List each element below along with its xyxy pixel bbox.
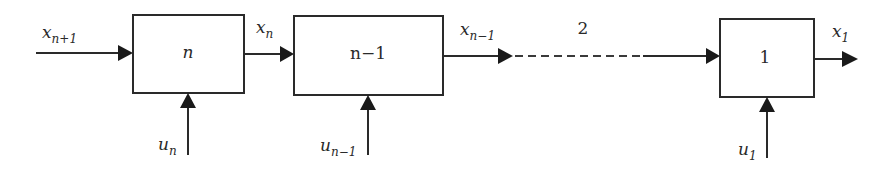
label-u-1: u1 <box>738 139 757 163</box>
label-u-n: un <box>158 134 177 158</box>
arrowhead <box>759 97 775 112</box>
stage-label-n-minus-1: n−1 <box>350 43 386 63</box>
arrowhead <box>280 46 294 62</box>
label-x-n: xn <box>256 17 273 41</box>
label-u-n-minus-1: un−1 <box>320 135 356 159</box>
arrowhead <box>706 48 720 64</box>
arrowhead <box>842 51 858 67</box>
arrowhead <box>498 48 513 64</box>
stage-label-1: 1 <box>760 47 771 67</box>
arrowhead <box>360 95 376 110</box>
arrowhead <box>118 45 133 61</box>
gap-stage-label: 2 <box>578 18 589 38</box>
arrowhead <box>180 93 196 108</box>
stage-label-n: n <box>183 42 194 62</box>
label-x-1: x1 <box>832 21 849 45</box>
label-x-n-plus-1: xn+1 <box>42 22 77 46</box>
stage-diagram: xn+1 n un xn n−1 un−1 xn−1 2 1 u1 x1 <box>0 0 892 173</box>
label-x-n-minus-1: xn−1 <box>460 19 495 43</box>
